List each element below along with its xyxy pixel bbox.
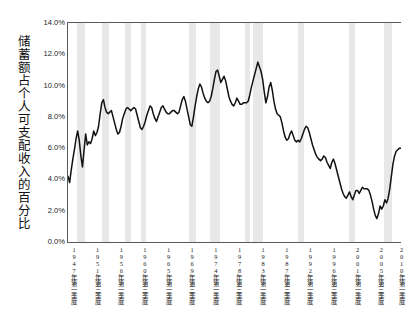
x-axis-tick-label: 1992年第一季度 xyxy=(301,246,314,304)
x-axis-tick-label: 1974年第一季度 xyxy=(206,246,219,304)
x-axis-tick-labels: 1947年第一季度1951年第三季度1956年第一季度1960年第三季度1965… xyxy=(0,0,417,321)
x-axis-tick-label: 1947年第一季度 xyxy=(64,246,77,304)
x-axis-tick-label: 2010年第一季度 xyxy=(392,246,405,304)
savings-rate-chart: 储蓄额占个人可支配收入的百分比 0.0%2.0%4.0%6.0%8.0%10.0… xyxy=(0,0,417,321)
x-axis-tick-label: 1965年第一季度 xyxy=(159,246,172,304)
x-axis-tick-label: 1996年第三季度 xyxy=(325,246,338,304)
x-axis-tick-label: 2005年第三季度 xyxy=(372,246,385,304)
x-axis-tick-label: 1951年第三季度 xyxy=(88,246,101,304)
x-axis-tick-label: 1978年第三季度 xyxy=(230,246,243,304)
x-axis-tick-label: 1987年第三季度 xyxy=(277,246,290,304)
x-axis-tick-label: 1983年第一季度 xyxy=(254,246,267,304)
x-axis-tick-label: 1960年第三季度 xyxy=(135,246,148,304)
x-axis-tick-label: 2001年第一季度 xyxy=(348,246,361,304)
x-axis-tick-label: 1956年第一季度 xyxy=(112,246,125,304)
x-axis-tick-label: 1969年第三季度 xyxy=(183,246,196,304)
